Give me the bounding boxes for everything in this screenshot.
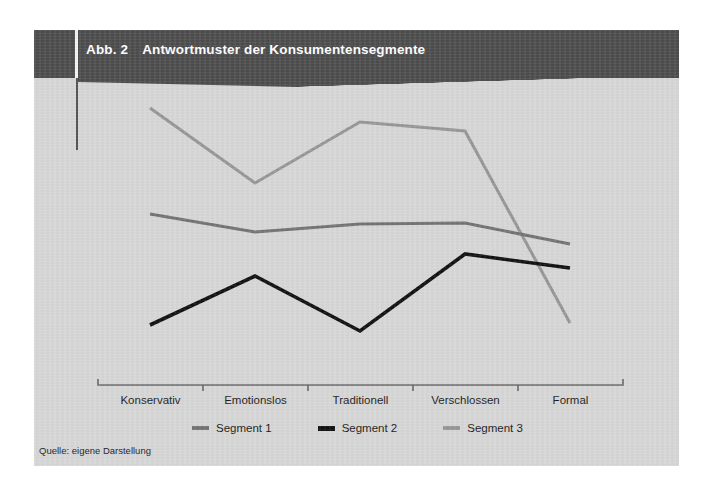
- legend-item-segment-2: Segment 2: [318, 422, 398, 434]
- legend-swatch-icon-segment-1: [192, 426, 209, 430]
- legend-label-segment-1: Segment 1: [216, 422, 272, 434]
- x-axis-group: [98, 379, 623, 391]
- legend-item-segment-3: Segment 3: [443, 422, 523, 434]
- x-axis-line: [98, 379, 623, 385]
- x-axis-labels: Konservativ Emotionslos Traditionell Ver…: [98, 394, 623, 412]
- series-line-segment-2: [150, 254, 570, 331]
- legend-swatch-icon-segment-2: [318, 426, 335, 431]
- series-group: [150, 108, 570, 331]
- legend-swatch-icon-segment-3: [443, 426, 460, 430]
- x-tick-label-traditionell: Traditionell: [308, 394, 413, 412]
- x-tick-label-emotionslos: Emotionslos: [203, 394, 308, 412]
- series-line-segment-1: [150, 214, 570, 244]
- x-tick-label-konservativ: Konservativ: [98, 394, 203, 412]
- legend-label-segment-2: Segment 2: [342, 422, 398, 434]
- source-note: Quelle: eigene Darstellung: [39, 445, 151, 456]
- legend-item-segment-1: Segment 1: [192, 422, 272, 434]
- figure-container: Abb. 2Antwortmuster der Konsumentensegme…: [34, 30, 679, 466]
- legend-label-segment-3: Segment 3: [467, 422, 523, 434]
- x-tick-label-formal: Formal: [518, 394, 623, 412]
- x-tick-label-verschlossen: Verschlossen: [413, 394, 518, 412]
- chart-legend: Segment 1 Segment 2 Segment 3: [192, 422, 523, 434]
- x-axis-ticks: [203, 385, 518, 391]
- series-line-segment-3: [150, 108, 570, 323]
